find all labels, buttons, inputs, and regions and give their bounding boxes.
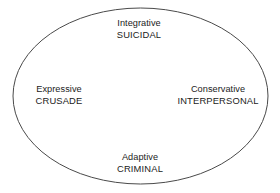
label-left-term: CRUSADE: [36, 95, 83, 106]
label-group-right: Conservative INTERPERSONAL: [177, 84, 258, 106]
diagram-canvas: Integrative SUICIDAL Expressive CRUSADE …: [0, 0, 280, 193]
label-group-bottom: Adaptive CRIMINAL: [117, 152, 163, 174]
label-bottom-term: CRIMINAL: [117, 163, 163, 174]
label-bottom-descriptor: Adaptive: [117, 152, 163, 163]
label-left-descriptor: Expressive: [36, 84, 83, 95]
label-right-descriptor: Conservative: [177, 84, 258, 95]
label-right-term: INTERPERSONAL: [177, 95, 258, 106]
label-group-top: Integrative SUICIDAL: [117, 18, 161, 40]
label-top-term: SUICIDAL: [117, 29, 161, 40]
label-group-left: Expressive CRUSADE: [36, 84, 83, 106]
label-top-descriptor: Integrative: [117, 18, 161, 29]
